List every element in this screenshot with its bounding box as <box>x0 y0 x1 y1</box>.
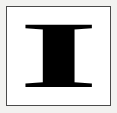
capital-letter-i-glyph: I <box>18 7 98 102</box>
glyph-border-box: I <box>6 6 111 106</box>
letter-tile: I <box>0 0 117 113</box>
glyph-area: I <box>7 7 110 105</box>
